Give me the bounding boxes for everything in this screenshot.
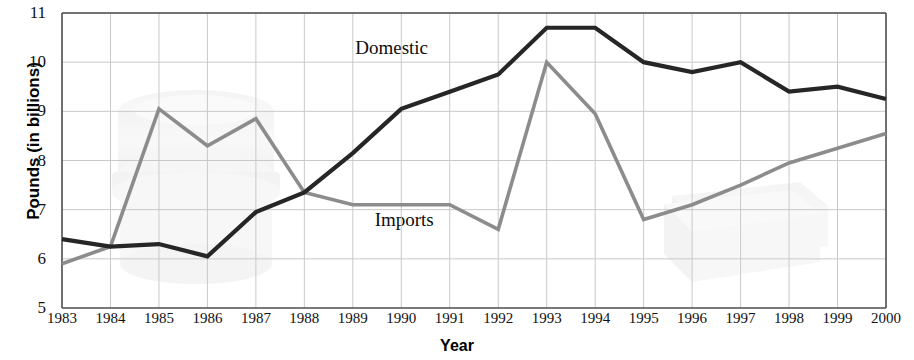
plot-area [0,0,914,360]
carton-watermark [664,182,828,282]
line-chart: Pounds (in billions) Year 567891011 1983… [0,0,914,360]
